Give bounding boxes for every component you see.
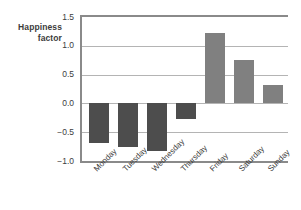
- y-axis-tick-label: 1.5: [44, 13, 74, 22]
- top-axis-line: [80, 15, 288, 17]
- gridline: [82, 46, 288, 47]
- y-axis-tick-label: 0.0: [44, 99, 74, 108]
- bar-saturday: [234, 60, 254, 104]
- bar-monday: [89, 103, 109, 142]
- bar-wednesday: [147, 103, 167, 150]
- y-axis-line: [80, 15, 82, 163]
- gridline: [82, 132, 288, 133]
- y-axis-tick-label: 0.5: [44, 70, 74, 79]
- bar-chart: Happiness factor 1.51.00.50.0−0.5−1.0 Mo…: [0, 0, 301, 210]
- bar-thursday: [176, 103, 196, 119]
- y-axis-tick-label: −1.0: [44, 157, 74, 166]
- y-axis-tick-label: −0.5: [44, 128, 74, 137]
- bar-sunday: [263, 85, 283, 103]
- bar-friday: [205, 33, 225, 104]
- gridline: [82, 75, 288, 76]
- y-axis-tick-label: 1.0: [44, 41, 74, 50]
- y-axis-title-line-1: Happiness: [0, 22, 62, 33]
- bar-tuesday: [118, 103, 138, 147]
